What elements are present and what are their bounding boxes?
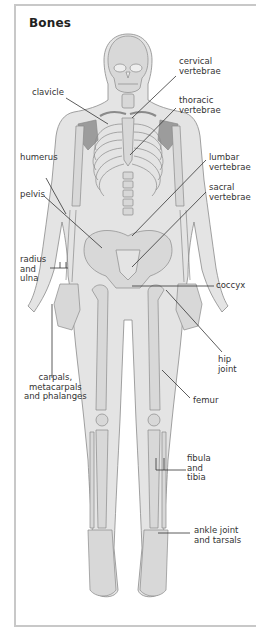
label-lumbar-vertebrae: lumbar vertebrae <box>209 153 251 172</box>
label-sacral-vertebrae: sacral vertebrae <box>209 183 251 202</box>
label-radius-and-ulna: radius and ulna <box>20 255 46 284</box>
label-thoracic-vertebrae: thoracic vertebrae <box>179 96 221 115</box>
label-fibula-and-tibia: fibula and tibia <box>187 454 211 483</box>
label-cervical-vertebrae: cervical vertebrae <box>179 57 221 76</box>
label-carpals-metacarpals-phalanges: carpals, metacarpals and phalanges <box>24 373 87 402</box>
label-femur: femur <box>193 396 218 406</box>
label-clavicle: clavicle <box>32 88 64 98</box>
label-hip-joint: hip joint <box>218 355 237 374</box>
label-pelvis: pelvis <box>20 190 45 200</box>
label-humerus: humerus <box>20 153 58 163</box>
label-ankle-joint-and-tarsals: ankle joint and tarsals <box>194 526 241 545</box>
label-coccyx: coccyx <box>216 281 245 291</box>
